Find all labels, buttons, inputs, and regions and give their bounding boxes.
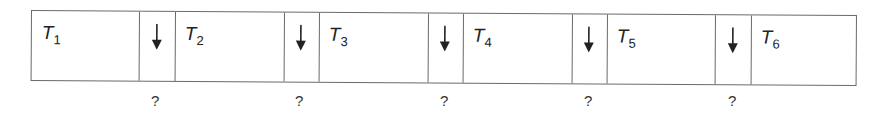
gap-cell-5 [715,15,751,84]
down-arrow-icon [438,25,452,51]
task-label: T1 [42,22,61,47]
task-cell-4: T4 [463,14,572,84]
question-mark: ? [728,92,736,109]
task-label: T2 [185,23,204,48]
task-cell-1: T1 [32,11,139,81]
gap-cell-1 [139,12,175,81]
gap-cell-3 [428,13,463,82]
task-strip: T1 T2 T3 T4 T5 T6 [31,10,857,86]
down-arrow-icon [726,27,740,53]
task-label: T3 [329,24,348,49]
task-cell-2: T2 [175,12,284,82]
task-label: T4 [473,25,492,50]
question-mark: ? [440,92,448,109]
gap-cell-2 [284,13,319,82]
question-mark: ? [584,92,592,109]
task-label: T6 [761,26,780,51]
task-cell-3: T3 [319,13,428,83]
task-label: T5 [617,26,636,51]
task-cell-6: T6 [751,15,858,85]
question-mark: ? [151,92,159,109]
down-arrow-icon [294,25,308,51]
down-arrow-icon [150,24,164,50]
task-cell-5: T5 [607,15,715,85]
down-arrow-icon [582,26,596,52]
question-mark: ? [295,92,303,109]
gap-cell-4 [572,14,607,83]
